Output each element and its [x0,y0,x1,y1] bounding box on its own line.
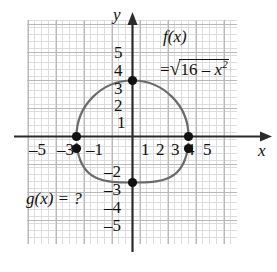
y-tick-neg4: –4 [104,199,121,216]
y-axis-label: y [113,6,121,23]
plot-canvas [0,0,277,272]
point-0-4 [128,76,137,85]
equals-sign: = [160,60,170,79]
radicand-exponent: 2 [222,58,228,70]
x-axis-label: x [258,142,266,159]
y-tick-5: 5 [114,44,123,61]
radicand: 16 – x2 [179,59,229,79]
x-tick-neg3: –3 [57,141,74,158]
question-label: g(x) = ? [26,190,82,207]
x-tick-neg5: –5 [29,141,46,158]
x-tick-5: 5 [203,141,212,158]
y-tick-2: 2 [114,97,123,114]
point-0-neg3 [128,178,137,187]
radicand-variable: x [215,60,223,79]
function-name-label: f(x) [163,28,187,45]
y-tick-4: 4 [114,62,123,79]
y-axis [128,12,138,252]
y-tick-neg2: –2 [104,163,121,180]
x-tick-1: 1 [141,141,150,158]
graph-figure: y x –5 –3 –1 1 2 3 4 5 5 4 3 2 1 –2 –3 –… [0,0,277,272]
y-tick-1: 1 [117,114,126,131]
radicand-lead: 16 – [181,60,215,79]
x-tick-2: 2 [156,141,165,158]
y-tick-neg5: –5 [104,217,121,234]
y-tick-neg3: –3 [104,181,121,198]
x-tick-3: 3 [171,141,180,158]
x-tick-neg1: –1 [86,141,103,158]
y-tick-3: 3 [114,80,123,97]
x-tick-4: 4 [186,141,195,158]
function-equation: =√16 – x2 [160,58,229,78]
